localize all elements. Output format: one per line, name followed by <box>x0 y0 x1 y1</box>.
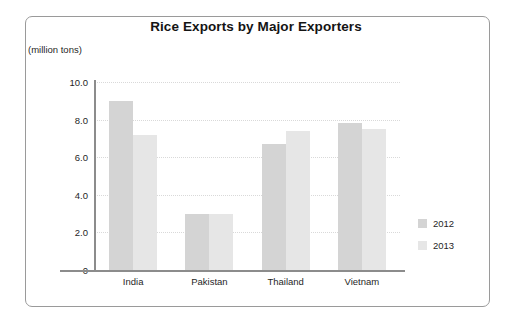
bar-group <box>95 82 171 270</box>
bar-pakistan-2013 <box>209 214 233 270</box>
y-axis-line <box>94 80 96 271</box>
plot-area <box>95 82 400 270</box>
bar-group <box>324 82 400 270</box>
legend-swatch-2013 <box>418 241 427 250</box>
bar-pakistan-2012 <box>185 214 209 270</box>
y-axis-tick-label: 10.0 <box>54 77 88 88</box>
y-axis-tick-label: 6.0 <box>54 152 88 163</box>
category-label-thailand: Thailand <box>267 276 303 287</box>
y-axis-unit-label: (million tons) <box>28 44 82 55</box>
y-axis-tick-label: 4.0 <box>54 189 88 200</box>
legend-item-2012: 2012 <box>418 218 454 229</box>
y-axis-tick-label: 8.0 <box>54 114 88 125</box>
y-axis-tick-labels: 10.08.06.04.02.00 <box>52 82 88 270</box>
category-label-pakistan: Pakistan <box>191 276 227 287</box>
legend-swatch-2012 <box>418 219 427 228</box>
bar-thailand-2013 <box>286 131 310 270</box>
category-label-vietnam: Vietnam <box>345 276 380 287</box>
legend-item-2013: 2013 <box>418 240 454 251</box>
category-label-india: India <box>123 276 144 287</box>
chart-title: Rice Exports by Major Exporters <box>0 19 512 34</box>
bar-group <box>171 82 247 270</box>
y-axis-tick-label: 2.0 <box>54 227 88 238</box>
bar-india-2012 <box>109 101 133 270</box>
bar-vietnam-2013 <box>362 129 386 270</box>
bar-group <box>248 82 324 270</box>
legend-label-2013: 2013 <box>433 240 454 251</box>
x-axis-line <box>60 270 405 272</box>
legend-label-2012: 2012 <box>433 218 454 229</box>
bar-india-2013 <box>133 135 157 270</box>
bar-vietnam-2012 <box>338 123 362 270</box>
bar-thailand-2012 <box>262 144 286 270</box>
chart-legend: 20122013 <box>418 218 454 262</box>
